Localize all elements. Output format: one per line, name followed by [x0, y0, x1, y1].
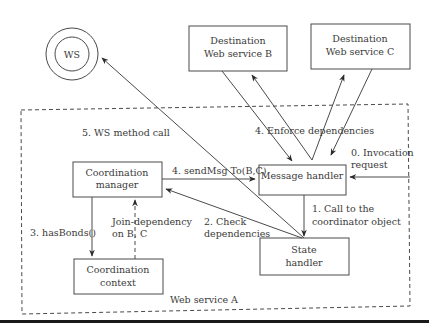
coord-manager-line2: manager	[96, 179, 139, 190]
label-invocation-2: request	[351, 159, 388, 170]
arrow-dest-c-to-handler	[331, 69, 372, 155]
label-join-dependency-2: on B, C	[112, 228, 147, 239]
bottom-rule	[0, 320, 429, 323]
state-handler-line2: handler	[285, 257, 323, 268]
coordination-context: Coordination context	[74, 259, 163, 294]
dest-b-line1: Destination	[210, 35, 265, 46]
label-join-dependency-1: Join-dependency	[111, 216, 193, 227]
coord-context-line2: context	[100, 277, 136, 288]
coord-manager-line1: Coordination	[86, 167, 149, 178]
dest-c-line1: Destination	[332, 33, 387, 44]
label-send-msg: 4. sendMsg To(B,C)	[172, 165, 267, 176]
label-ws-method-call: 5. WS method call	[82, 127, 170, 138]
label-check-dependencies-1: 2. Check	[204, 216, 246, 227]
destination-web-service-b: Destination Web service B	[189, 26, 287, 71]
state-handler: State handler	[260, 238, 349, 275]
arrow-handler-to-dest-c	[312, 75, 344, 160]
ws-node: WS	[46, 28, 98, 80]
dest-b-line2: Web service B	[204, 48, 272, 59]
state-handler-line1: State	[291, 244, 317, 255]
label-has-bonds: 3. hasBonds()	[30, 227, 96, 238]
coord-context-line1: Coordination	[87, 264, 150, 275]
dest-c-line2: Web service C	[326, 46, 394, 57]
web-service-a-label: Web service A	[170, 294, 238, 305]
message-handler-label: Message handler	[261, 170, 344, 181]
destination-web-service-c: Destination Web service C	[311, 24, 410, 69]
label-invocation-1: 0. Invocation	[351, 147, 414, 158]
label-call-coordinator-2: coordinator object	[312, 216, 401, 227]
label-check-dependencies-2: dependencies	[204, 228, 270, 239]
ws-label: WS	[64, 49, 80, 60]
architecture-diagram: Web service A WS Destination Web service…	[0, 0, 429, 334]
label-enforce-dependencies: 4. Enforce dependencies	[255, 125, 374, 136]
coordination-manager: Coordination manager	[73, 162, 162, 197]
label-call-coordinator-1: 1. Call to the	[312, 203, 375, 214]
arrow-handler-to-dest-b	[252, 75, 312, 160]
message-handler: Message handler	[259, 165, 346, 195]
arrow-ws-method-call	[102, 58, 304, 238]
